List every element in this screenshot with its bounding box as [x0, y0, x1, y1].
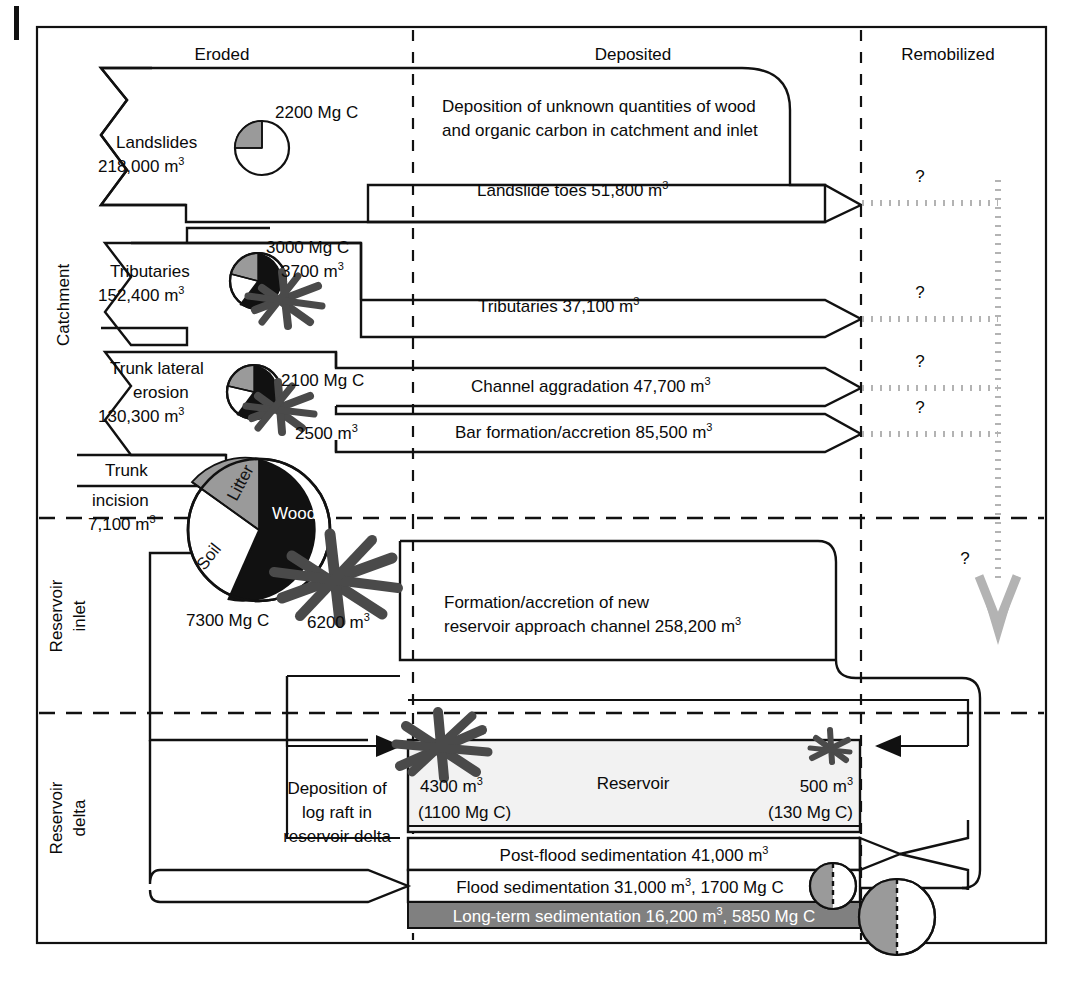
- post-flood-text: Post-flood sedimentation 41,000 m: [500, 846, 763, 865]
- trunk-lateral-volume-value: 130,300 m: [98, 407, 178, 426]
- tributaries-wood-value: 3700 m: [281, 262, 338, 281]
- landslides-volume: 218,000 m3: [98, 156, 184, 177]
- pie-flood-sedimentation: [810, 863, 856, 909]
- trunk-incision-name-line1: Trunk: [105, 460, 148, 481]
- approach-channel-line2: reservoir approach channel 258,200 m3: [444, 616, 741, 637]
- log-raft-line1: Deposition of: [287, 778, 386, 799]
- tributaries-wood-unit: 3: [338, 260, 344, 272]
- landslides-volume-unit: 3: [178, 155, 184, 167]
- pie-landslides: [235, 121, 289, 175]
- zone-label-reservoir-inlet-line1: Reservoir: [46, 580, 67, 653]
- flood-suffix: , 1700 Mg C: [691, 878, 784, 897]
- landslides-carbon: 2200 Mg C: [275, 102, 358, 123]
- inlet-wood-unit: 3: [364, 611, 370, 623]
- zone-label-reservoir-delta-line1: Reservoir: [46, 782, 67, 855]
- trunk-lateral-volume: 130,300 m3: [98, 406, 184, 427]
- inlet-total-wood-volume: 6200 m3: [307, 612, 370, 633]
- reservoir-far-wood-volume: 500 m3: [800, 776, 853, 797]
- figure-canvas: Eroded Deposited Remobilized Catchment R…: [0, 0, 1075, 1003]
- inlet-wood-value: 6200 m: [307, 613, 364, 632]
- zone-label-reservoir-inlet-line2: inlet: [69, 600, 90, 631]
- delta-wood-unit: 3: [477, 775, 483, 787]
- far-wood-unit: 3: [847, 775, 853, 787]
- post-flood-inflow-arrow: [860, 838, 900, 870]
- remobilized-question-tributaries: ?: [915, 282, 924, 303]
- unknown-deposition-line1: Deposition of unknown quantities of wood: [442, 96, 756, 117]
- trunk-lateral-name-line2: erosion: [133, 382, 189, 403]
- trunk-lateral-wood-unit: 3: [352, 422, 358, 434]
- column-header-remobilized: Remobilized: [901, 44, 995, 65]
- remobilized-dotted-network: [862, 180, 998, 580]
- column-header-eroded: Eroded: [195, 44, 250, 65]
- log-raft-inflow-arrow: [287, 676, 400, 746]
- trunk-lateral-wood-value: 2500 m: [295, 424, 352, 443]
- log-raft-line3: reservoir delta: [283, 826, 391, 847]
- landslide-toes-label: Landslide toes 51,800 m3: [477, 180, 668, 201]
- remobilized-question-landslide-toes: ?: [915, 166, 924, 187]
- trunk-lateral-carbon: 2100 Mg C: [281, 370, 364, 391]
- trunk-incision-volume: 7,100 m3: [88, 514, 156, 535]
- long-term-sedimentation-label: Long-term sedimentation 16,200 m3, 5850 …: [453, 906, 815, 927]
- tributaries-deposited-text: Tributaries 37,100 m: [478, 297, 633, 316]
- tributaries-volume: 152,400 m3: [98, 285, 184, 306]
- bar-formation-label: Bar formation/accretion 85,500 m3: [455, 422, 712, 443]
- tributaries-volume-unit: 3: [178, 284, 184, 296]
- reservoir-far-wood-carbon: (130 Mg C): [768, 802, 853, 823]
- long-term-suffix: , 5850 Mg C: [723, 907, 816, 926]
- inlet-total-carbon: 7300 Mg C: [186, 610, 269, 631]
- tributaries-deposited-label: Tributaries 37,100 m3: [478, 296, 639, 317]
- flood-sedimentation-label: Flood sedimentation 31,000 m3, 1700 Mg C: [456, 877, 783, 898]
- tributaries-wood-volume: 3700 m3: [281, 261, 344, 282]
- trunk-lateral-name-line1: Trunk lateral: [110, 358, 204, 379]
- flood-text: Flood sedimentation 31,000 m: [456, 878, 685, 897]
- post-flood-unit: 3: [762, 844, 768, 856]
- landslides-flow-body: [101, 68, 825, 222]
- delta-wood-value: 4300 m: [420, 777, 477, 796]
- remobilized-question-bar-formation: ?: [915, 397, 924, 418]
- trunk-lateral-wood-volume: 2500 m3: [295, 423, 358, 444]
- remobilized-chevron-arrow: [979, 576, 1017, 624]
- channel-aggradation-label: Channel aggradation 47,700 m3: [471, 376, 711, 397]
- channel-aggradation-unit: 3: [704, 375, 710, 387]
- trunk-incision-name-line2: incision: [92, 490, 149, 511]
- trunk-lateral-volume-unit: 3: [178, 405, 184, 417]
- post-flood-sedimentation-label: Post-flood sedimentation 41,000 m3: [500, 845, 769, 866]
- corner-tick: [14, 6, 19, 40]
- long-term-text: Long-term sedimentation 16,200 m: [453, 907, 717, 926]
- landslides-name: Landslides: [116, 132, 197, 153]
- remobilized-question-inlet-transfer: ?: [960, 548, 969, 569]
- reservoir-delta-wood-volume: 4300 m3: [420, 776, 483, 797]
- channel-aggradation-text: Channel aggradation 47,700 m: [471, 377, 704, 396]
- tributaries-name: Tributaries: [110, 261, 190, 282]
- bar-formation-unit: 3: [706, 421, 712, 433]
- landslide-toes-text: Landslide toes 51,800 m: [477, 181, 662, 200]
- landslides-volume-value: 218,000 m: [98, 157, 178, 176]
- remobilized-question-channel-aggradation: ?: [915, 351, 924, 372]
- bar-formation-text: Bar formation/accretion 85,500 m: [455, 423, 706, 442]
- trunk-incision-volume-unit: 3: [149, 513, 155, 525]
- log-raft-line2: log raft in: [302, 802, 372, 823]
- approach-channel-unit: 3: [735, 615, 741, 627]
- tributaries-carbon: 3000 Mg C: [266, 237, 349, 258]
- tributaries-volume-value: 152,400 m: [98, 286, 178, 305]
- unknown-deposition-line2: and organic carbon in catchment and inle…: [442, 120, 758, 141]
- reservoir-label: Reservoir: [597, 773, 670, 794]
- column-header-deposited: Deposited: [595, 44, 672, 65]
- reservoir-delta-wood-carbon: (1100 Mg C): [418, 802, 511, 823]
- zone-label-catchment: Catchment: [53, 264, 74, 346]
- approach-channel-line1: Formation/accretion of new: [444, 592, 649, 613]
- pie-long-term-sedimentation: [859, 879, 935, 955]
- far-wood-value: 500 m: [800, 777, 847, 796]
- tributaries-deposited-unit: 3: [633, 295, 639, 307]
- flood-sedimentation-inflow-arrow: [170, 870, 408, 902]
- zone-label-reservoir-delta-line2: delta: [69, 800, 90, 837]
- approach-channel-text: reservoir approach channel 258,200 m: [444, 617, 735, 636]
- trunk-incision-volume-value: 7,100 m: [88, 515, 149, 534]
- landslide-toes-unit: 3: [662, 179, 668, 191]
